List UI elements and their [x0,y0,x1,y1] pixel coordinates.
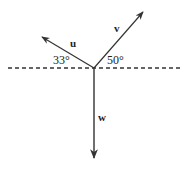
vector-v-label: v [114,22,120,34]
vector-w-label: w [98,111,106,123]
vector-u-label: u [70,37,76,49]
vector-diagram: u v w 33° 50° [0,0,193,170]
angle-u-label: 33° [53,53,70,67]
angle-v-label: 50° [107,53,124,67]
